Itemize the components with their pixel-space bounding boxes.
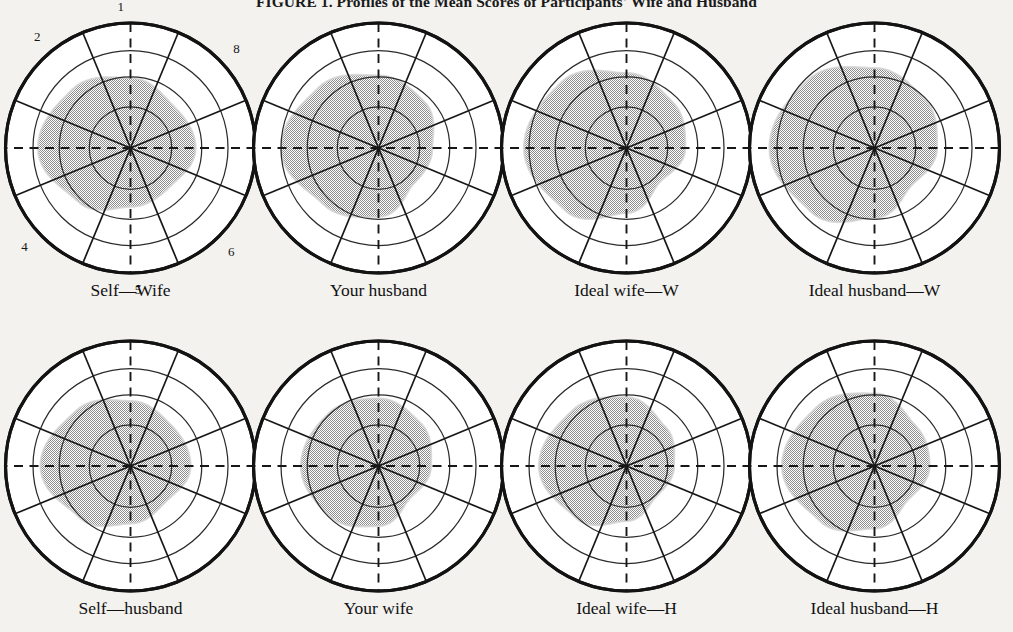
polar-chart-4	[4, 330, 257, 602]
panel-your-wife[interactable]: Your wife	[252, 330, 505, 632]
panel-ideal-wife-w[interactable]: Ideal wife—W	[500, 12, 753, 314]
panel-grid: 12345678 Self—Wife Your husband Ideal wi…	[0, 12, 1013, 632]
panel-your-husband[interactable]: Your husband	[252, 12, 505, 314]
panel-label-7: Ideal husband—H	[748, 598, 1001, 619]
sector-number-4: 4	[21, 239, 28, 254]
polar-chart-0: 12345678	[4, 12, 257, 284]
polar-chart-7	[748, 330, 1001, 602]
panel-label-0: Self—Wife	[4, 280, 257, 301]
polar-chart-2	[500, 12, 753, 284]
polar-chart-1	[252, 12, 505, 284]
panel-label-6: Ideal wife—H	[500, 598, 753, 619]
panel-label-4: Self—husband	[4, 598, 257, 619]
panel-label-2: Ideal wife—W	[500, 280, 753, 301]
panel-label-5: Your wife	[252, 598, 505, 619]
panel-ideal-husband-w[interactable]: Ideal husband—W	[748, 12, 1001, 314]
sector-number-6: 6	[228, 244, 235, 259]
panel-label-1: Your husband	[252, 280, 505, 301]
panel-ideal-wife-h[interactable]: Ideal wife—H	[500, 330, 753, 632]
sector-number-1: 1	[117, 0, 124, 14]
panel-self-husband[interactable]: Self—husband	[4, 330, 257, 632]
sector-number-8: 8	[233, 41, 240, 56]
figure-title: FIGURE 1. Profiles of the Mean Scores of…	[0, 0, 1013, 11]
panel-ideal-husband-h[interactable]: Ideal husband—H	[748, 330, 1001, 632]
polar-chart-5	[252, 330, 505, 602]
panel-self-wife[interactable]: 12345678 Self—Wife	[4, 12, 257, 314]
sector-number-2: 2	[34, 29, 41, 44]
polar-chart-3	[748, 12, 1001, 284]
panel-label-3: Ideal husband—W	[748, 280, 1001, 301]
polar-chart-6	[500, 330, 753, 602]
figure-root: FIGURE 1. Profiles of the Mean Scores of…	[0, 0, 1013, 632]
